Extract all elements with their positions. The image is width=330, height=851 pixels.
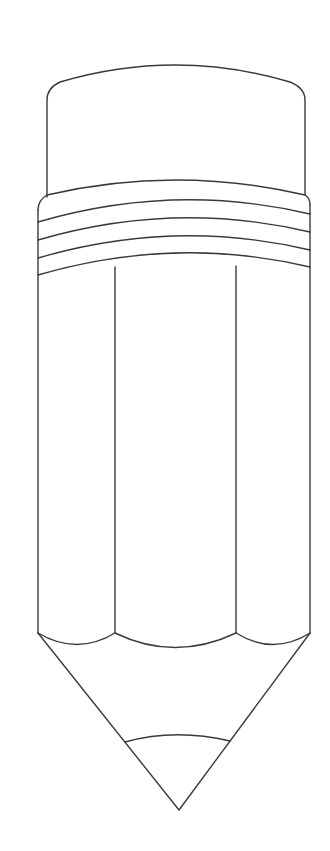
eraser bbox=[47, 65, 305, 197]
pencil-body bbox=[38, 205, 310, 648]
pencil-illustration bbox=[0, 0, 330, 851]
ferrule bbox=[38, 180, 310, 275]
pencil-tip bbox=[38, 633, 310, 810]
